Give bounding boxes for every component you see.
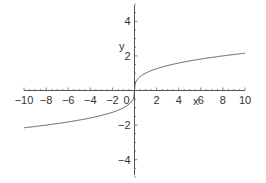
x-tick-label: 10 [239, 94, 251, 106]
x-tick-label: 8 [220, 94, 226, 106]
y-axis-label: y [119, 40, 125, 52]
y-tick-label: −4 [118, 154, 131, 166]
x-tick-label: −6 [62, 94, 75, 106]
y-tick-label: 4 [124, 15, 130, 27]
x-tick-label: −4 [84, 94, 97, 106]
chart-plot: −10−8−6−4−20246810−4−224 x y [0, 0, 266, 183]
x-tick-label: −8 [40, 94, 53, 106]
axes: −10−8−6−4−20246810−4−224 [15, 4, 251, 177]
y-tick-label: −2 [118, 119, 131, 131]
x-axis-label: x [193, 95, 199, 107]
x-tick-label: −10 [15, 94, 34, 106]
y-tick-label: 2 [124, 50, 130, 62]
x-tick-label: 6 [198, 94, 204, 106]
x-tick-label: 4 [176, 94, 182, 106]
x-tick-label: −2 [106, 94, 119, 106]
x-tick-label: 2 [154, 94, 160, 106]
